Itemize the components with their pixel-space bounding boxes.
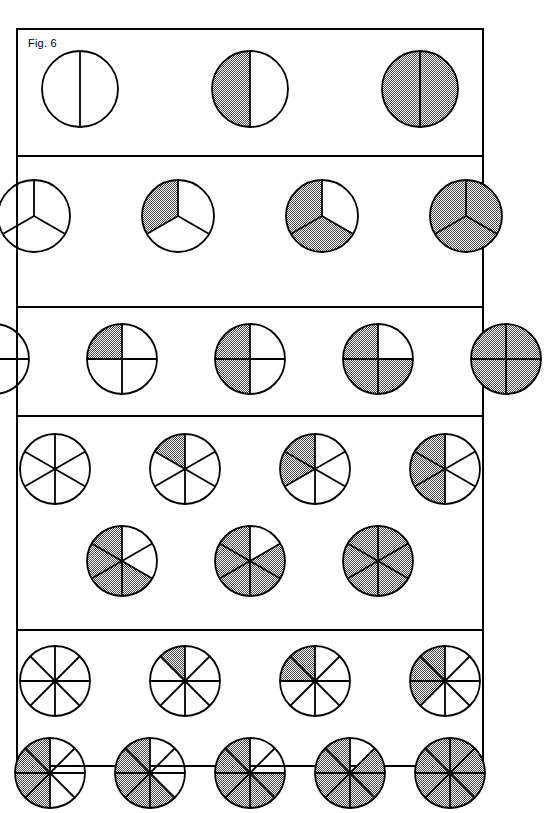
- divider-line: [185, 469, 215, 487]
- figure-row-sixths: [18, 431, 482, 631]
- fraction-circle-cell: [139, 177, 217, 255]
- divider-line: [445, 681, 470, 706]
- fraction-circle: [212, 321, 288, 397]
- circle-line: [18, 431, 482, 507]
- divider-line: [185, 681, 210, 706]
- divider-line: [3, 216, 34, 234]
- divider-line: [25, 469, 55, 487]
- fraction-circle: [212, 523, 288, 599]
- divider-line: [155, 469, 185, 487]
- divider-line: [122, 544, 152, 562]
- divider-line: [315, 681, 340, 706]
- fraction-circle: [139, 177, 217, 255]
- fraction-circle: [277, 431, 353, 507]
- divider-line: [445, 452, 475, 470]
- fraction-circle: [407, 643, 483, 719]
- fraction-circle: [12, 735, 88, 811]
- shaded-wedge: [160, 646, 185, 681]
- divider-line: [178, 216, 209, 234]
- circle-line: [18, 643, 482, 719]
- divider-line: [55, 656, 80, 681]
- fraction-circle-cell: [340, 321, 416, 397]
- fraction-circle-cell: [340, 523, 416, 599]
- divider-line: [55, 452, 85, 470]
- fraction-circle-cell: [17, 431, 93, 507]
- circle-line: [18, 321, 482, 397]
- fraction-circle: [209, 48, 291, 130]
- divider-line: [315, 656, 340, 681]
- divider-line: [30, 681, 55, 706]
- fraction-circle: [277, 643, 353, 719]
- divider-line: [315, 452, 345, 470]
- fraction-circle-cell: [209, 48, 291, 130]
- fraction-circle: [427, 177, 505, 255]
- fraction-circle: [0, 177, 73, 255]
- fraction-circle: [147, 643, 223, 719]
- divider-line: [445, 469, 475, 487]
- divider-line: [55, 681, 80, 706]
- shaded-wedge: [150, 773, 175, 808]
- fraction-circle: [340, 321, 416, 397]
- figure-row-quarters: [18, 321, 482, 417]
- fraction-circle-cell: [112, 735, 188, 811]
- fraction-circle-cell: [39, 48, 121, 130]
- divider-line: [50, 748, 75, 773]
- fraction-circle-cell: [412, 735, 488, 811]
- divider-line: [150, 748, 175, 773]
- fraction-circle-cell: [212, 321, 288, 397]
- divider-line: [315, 469, 345, 487]
- fraction-circle: [84, 523, 160, 599]
- fraction-circle: [412, 735, 488, 811]
- fraction-circle-cell: [407, 643, 483, 719]
- divider-line: [185, 656, 210, 681]
- fraction-circle: [39, 48, 121, 130]
- fraction-circle-cell: [84, 321, 160, 397]
- fraction-circle-cell: [212, 735, 288, 811]
- fraction-circle-cell: [147, 431, 223, 507]
- fraction-circle-cell: [0, 321, 32, 397]
- circle-line: [18, 523, 482, 599]
- fraction-circle-cell: [468, 321, 544, 397]
- divider-line: [50, 773, 75, 798]
- divider-line: [34, 216, 65, 234]
- fraction-circle-cell: [379, 48, 461, 130]
- fraction-circle: [17, 643, 93, 719]
- shaded-wedge: [155, 434, 185, 469]
- fraction-circle: [283, 177, 361, 255]
- divider-line: [185, 452, 215, 470]
- circle-line: [18, 177, 482, 255]
- fraction-circle: [340, 523, 416, 599]
- fraction-circle: [0, 321, 32, 397]
- figure-row-eighths: [18, 643, 482, 813]
- fraction-circle: [84, 321, 160, 397]
- divider-line: [250, 748, 275, 773]
- fraction-circle: [212, 735, 288, 811]
- fraction-circle-cell: [407, 431, 483, 507]
- fraction-circle: [112, 735, 188, 811]
- shaded-wedge: [350, 748, 385, 773]
- circle-line: [18, 735, 482, 811]
- fraction-circle-cell: [212, 523, 288, 599]
- shaded-wedge: [382, 51, 420, 127]
- shaded-wedge: [122, 561, 152, 596]
- figure-row-halves: [18, 48, 482, 157]
- fraction-circle-cell: [427, 177, 505, 255]
- divider-line: [290, 681, 315, 706]
- figure-frame: Fig. 6: [16, 28, 484, 767]
- fraction-circle-cell: [147, 643, 223, 719]
- divider-line: [55, 469, 85, 487]
- fraction-circle-cell: [12, 735, 88, 811]
- shaded-wedge: [410, 681, 445, 706]
- fraction-circle-cell: [0, 177, 73, 255]
- fraction-circle: [147, 431, 223, 507]
- fraction-circle-cell: [277, 431, 353, 507]
- fraction-circle-cell: [312, 735, 388, 811]
- fraction-circle-cell: [17, 643, 93, 719]
- shaded-wedge: [420, 51, 458, 127]
- fraction-circle: [468, 321, 544, 397]
- divider-line: [30, 656, 55, 681]
- fraction-circle: [379, 48, 461, 130]
- divider-line: [25, 452, 55, 470]
- divider-line: [445, 656, 470, 681]
- fraction-circle: [312, 735, 388, 811]
